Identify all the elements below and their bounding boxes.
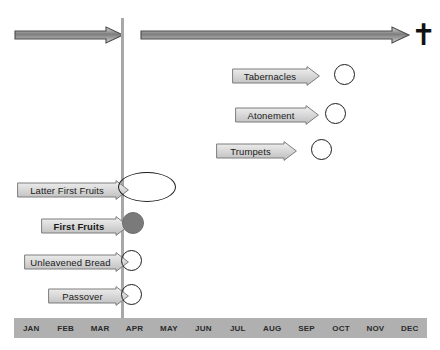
month-dec: DEC xyxy=(393,324,427,333)
marker-tabernacles xyxy=(334,64,355,85)
month-axis-bar: JAN FEB MAR APR MAY JUN JUL AUG SEP OCT … xyxy=(14,318,427,338)
feast-label-passover[interactable]: Passover xyxy=(48,286,129,306)
feast-label-atonement[interactable]: Atonement xyxy=(235,105,319,125)
month-feb: FEB xyxy=(48,324,82,333)
month-oct: OCT xyxy=(324,324,358,333)
timeline-divider xyxy=(121,18,124,318)
month-jan: JAN xyxy=(14,324,48,333)
month-aug: AUG xyxy=(255,324,289,333)
month-mar: MAR xyxy=(83,324,117,333)
left-era-arrow xyxy=(14,26,126,44)
cross-icon: ✝ xyxy=(411,20,433,54)
feast-label-latter-first-fruits[interactable]: Latter First Fruits xyxy=(17,180,129,200)
marker-atonement xyxy=(325,103,346,124)
feast-name: Trumpets xyxy=(230,146,283,157)
feasts-timeline-diagram: ✝ Tabernacles Atonem xyxy=(0,0,440,350)
month-nov: NOV xyxy=(358,324,392,333)
month-jul: JUL xyxy=(221,324,255,333)
feast-name: Passover xyxy=(62,291,114,302)
month-sep: SEP xyxy=(289,324,323,333)
feast-name: Latter First Fruits xyxy=(30,185,116,196)
feast-name: First Fruits xyxy=(54,221,117,232)
month-apr: APR xyxy=(117,324,151,333)
feast-label-first-fruits[interactable]: First Fruits xyxy=(41,216,129,236)
feast-label-trumpets[interactable]: Trumpets xyxy=(216,141,297,161)
month-jun: JUN xyxy=(186,324,220,333)
marker-passover xyxy=(121,284,142,305)
marker-latter-first-fruits xyxy=(118,172,176,202)
marker-first-fruits xyxy=(122,212,144,234)
feast-name: Atonement xyxy=(248,110,307,121)
right-era-arrow xyxy=(140,26,412,44)
feast-name: Tabernacles xyxy=(244,71,308,82)
month-may: MAY xyxy=(152,324,186,333)
marker-trumpets xyxy=(311,139,332,160)
feast-name: Unleavened Bread xyxy=(30,257,122,268)
marker-unleavened-bread xyxy=(121,250,142,271)
feast-label-unleavened-bread[interactable]: Unleavened Bread xyxy=(24,252,129,272)
feast-label-tabernacles[interactable]: Tabernacles xyxy=(232,66,320,86)
